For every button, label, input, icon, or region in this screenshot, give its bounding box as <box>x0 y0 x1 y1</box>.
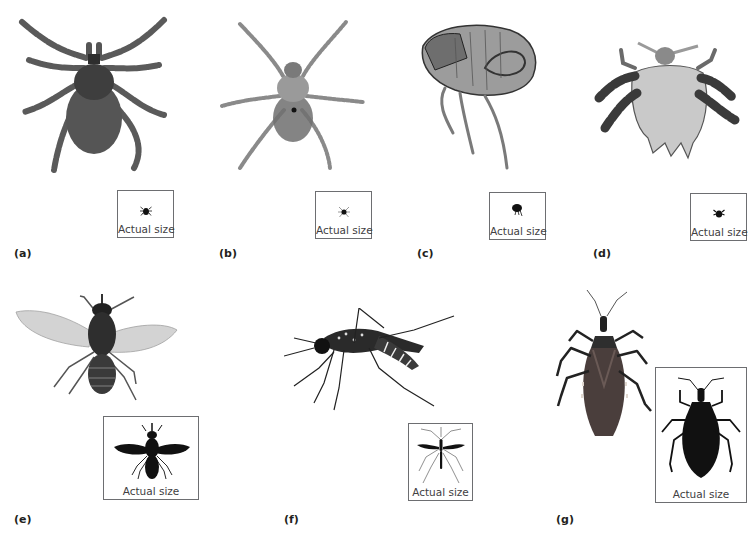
actual-size-caption: Actual size <box>118 223 173 235</box>
actual-size-box-f: Actual size <box>408 423 473 501</box>
flea-image <box>415 18 540 176</box>
louse-image <box>593 38 743 163</box>
tsetse-fly-image <box>14 292 179 407</box>
panel-label-c: (c) <box>417 248 434 260</box>
mite-image <box>218 18 368 173</box>
actual-size-caption: Actual size <box>409 486 472 498</box>
actual-size-box-b: Actual size <box>315 191 372 239</box>
mosquito-silhouette-icon <box>411 427 471 487</box>
actual-size-caption: Actual size <box>691 226 746 238</box>
actual-size-caption: Actual size <box>104 485 198 497</box>
kissing-bug-image <box>555 286 655 436</box>
tick-silhouette-icon <box>140 205 152 217</box>
actual-size-box-a: Actual size <box>117 190 174 238</box>
kissing-bug-silhouette-icon <box>658 372 744 482</box>
panel-label-g: (g) <box>556 514 574 526</box>
panel-label-f: (f) <box>284 514 299 526</box>
tsetse-fly-silhouette-icon <box>112 423 192 483</box>
mosquito-image <box>284 308 464 418</box>
actual-size-box-g: Actual size <box>655 367 747 503</box>
tick-image <box>14 10 174 175</box>
louse-silhouette-icon <box>713 207 725 219</box>
actual-size-box-d: Actual size <box>690 193 747 241</box>
mite-silhouette-icon <box>338 206 350 218</box>
flea-silhouette-icon <box>511 203 525 217</box>
actual-size-box-c: Actual size <box>489 192 546 240</box>
actual-size-box-e: Actual size <box>103 416 199 500</box>
actual-size-caption: Actual size <box>490 225 545 237</box>
panel-label-e: (e) <box>14 514 32 526</box>
panel-label-b: (b) <box>219 248 237 260</box>
panel-label-a: (a) <box>14 248 31 260</box>
panel-label-d: (d) <box>593 248 611 260</box>
actual-size-caption: Actual size <box>656 488 746 500</box>
actual-size-caption: Actual size <box>316 224 371 236</box>
